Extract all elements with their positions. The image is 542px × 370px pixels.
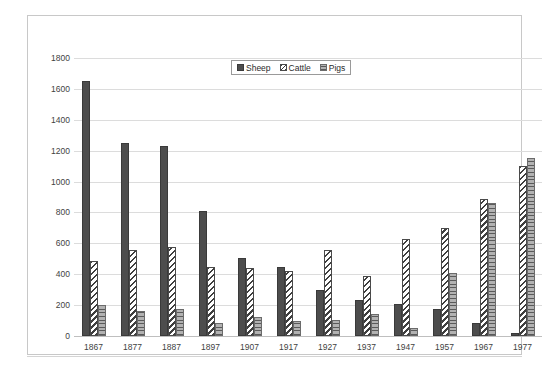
bar-pigs-1907[interactable] [254, 317, 262, 336]
bar-sheep-1947[interactable] [394, 304, 402, 336]
gridline [74, 336, 542, 337]
y-tick-label: 0 [36, 332, 70, 341]
chart-frame: 020040060080010001200140016001800 186718… [27, 15, 522, 355]
y-tick-label: 800 [36, 208, 70, 217]
bar-sheep-1887[interactable] [160, 146, 168, 336]
legend-label: Pigs [329, 63, 346, 73]
legend-label: Sheep [246, 63, 271, 73]
bar-group-1887 [152, 58, 191, 336]
bar-cattle-1977[interactable] [519, 166, 527, 336]
legend-label: Cattle [289, 63, 311, 73]
bar-pigs-1957[interactable] [449, 273, 457, 336]
bar-cattle-1937[interactable] [363, 276, 371, 336]
bar-cattle-1917[interactable] [285, 271, 293, 336]
bar-series-container [74, 58, 542, 336]
bar-sheep-1967[interactable] [472, 323, 480, 336]
bar-group-1897 [191, 58, 230, 336]
bar-pigs-1937[interactable] [371, 314, 379, 336]
bar-group-1867 [74, 58, 113, 336]
bar-group-1907 [230, 58, 269, 336]
y-axis-tick-labels: 020040060080010001200140016001800 [32, 58, 70, 336]
bottom-rule [27, 356, 522, 357]
bar-cattle-1897[interactable] [207, 267, 215, 337]
chart-legend: SheepCattlePigs [231, 60, 351, 75]
bar-sheep-1927[interactable] [316, 290, 324, 336]
bar-cattle-1967[interactable] [480, 199, 488, 336]
y-tick-label: 1800 [36, 54, 70, 63]
bar-group-1957 [425, 58, 464, 336]
bar-pigs-1947[interactable] [410, 328, 418, 336]
legend-item-sheep[interactable]: Sheep [237, 63, 271, 73]
y-tick-label: 1600 [36, 85, 70, 94]
bar-pigs-1867[interactable] [98, 305, 106, 336]
bar-cattle-1947[interactable] [402, 239, 410, 336]
bar-pigs-1897[interactable] [215, 323, 223, 336]
bar-sheep-1937[interactable] [355, 300, 363, 336]
bar-cattle-1867[interactable] [90, 261, 98, 336]
bar-sheep-1917[interactable] [277, 267, 285, 336]
y-tick-label: 1000 [36, 177, 70, 186]
legend-item-cattle[interactable]: Cattle [280, 63, 311, 73]
pigs-swatch-icon [320, 64, 327, 71]
bar-cattle-1877[interactable] [129, 250, 137, 336]
bar-pigs-1927[interactable] [332, 320, 340, 336]
bar-group-1947 [386, 58, 425, 336]
bar-group-1927 [308, 58, 347, 336]
bar-sheep-1867[interactable] [82, 81, 90, 336]
bar-group-1977 [503, 58, 542, 336]
cattle-swatch-icon [280, 64, 287, 71]
bar-pigs-1887[interactable] [176, 309, 184, 336]
bar-group-1877 [113, 58, 152, 336]
y-tick-label: 400 [36, 270, 70, 279]
bar-cattle-1907[interactable] [246, 268, 254, 336]
bar-pigs-1917[interactable] [293, 321, 301, 336]
y-tick-label: 600 [36, 239, 70, 248]
bar-sheep-1877[interactable] [121, 143, 129, 336]
bar-sheep-1977[interactable] [511, 333, 519, 336]
bar-cattle-1957[interactable] [441, 228, 449, 336]
y-tick-label: 1400 [36, 116, 70, 125]
bar-group-1917 [269, 58, 308, 336]
plot-area [74, 58, 542, 336]
bar-sheep-1957[interactable] [433, 309, 441, 336]
bar-group-1937 [347, 58, 386, 336]
bar-pigs-1977[interactable] [527, 158, 535, 336]
legend-item-pigs[interactable]: Pigs [320, 63, 346, 73]
bar-sheep-1907[interactable] [238, 258, 246, 336]
bar-group-1967 [464, 58, 503, 336]
sheep-swatch-icon [237, 64, 244, 71]
bar-cattle-1927[interactable] [324, 250, 332, 336]
y-tick-label: 200 [36, 301, 70, 310]
bar-cattle-1887[interactable] [168, 247, 176, 336]
bar-pigs-1877[interactable] [137, 311, 145, 336]
y-tick-label: 1200 [36, 146, 70, 155]
bar-sheep-1897[interactable] [199, 211, 207, 336]
bar-pigs-1967[interactable] [488, 203, 496, 336]
